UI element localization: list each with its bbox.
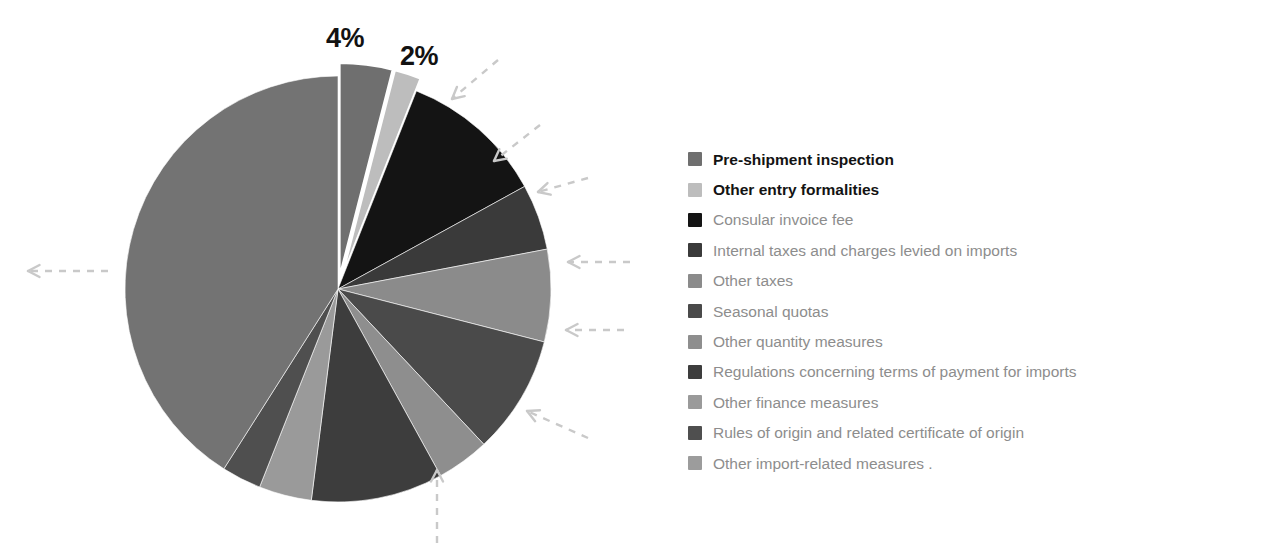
legend-item[interactable]: Consular invoice fee (688, 205, 1248, 235)
pie-chart-area: 4% 2% (0, 0, 660, 543)
legend-swatch-icon (688, 365, 702, 379)
legend-item[interactable]: Other taxes (688, 266, 1248, 296)
legend-swatch-icon (688, 426, 702, 440)
legend-item[interactable]: Rules of origin and related certificate … (688, 418, 1248, 448)
legend-item-label: Pre-shipment inspection (713, 151, 894, 168)
legend-item-label: Other import-related measures . (713, 455, 933, 472)
legend-item-label: Seasonal quotas (713, 303, 828, 320)
legend-item-label: Rules of origin and related certificate … (713, 424, 1024, 441)
legend-swatch-icon (688, 395, 702, 409)
legend-item-label: Other finance measures (713, 394, 878, 411)
legend-swatch-icon (688, 274, 702, 288)
legend-swatch-icon (688, 183, 702, 197)
legend-swatch-icon (688, 152, 702, 166)
arrow-lower-right-icon (527, 410, 588, 438)
pie-data-label-2pct: 2% (400, 41, 438, 72)
legend-item[interactable]: Other entry formalities (688, 174, 1248, 204)
legend-item[interactable]: Regulations concerning terms of payment … (688, 357, 1248, 387)
legend-item[interactable]: Seasonal quotas (688, 296, 1248, 326)
pie-data-label-4pct: 4% (326, 23, 364, 54)
legend-swatch-icon (688, 335, 702, 349)
legend-item-label: Consular invoice fee (713, 211, 853, 228)
legend-swatch-icon (688, 304, 702, 318)
arrow-left-icon (28, 265, 108, 277)
arrow-bottom-icon (431, 470, 443, 543)
legend-item[interactable]: Other quantity measures (688, 326, 1248, 356)
arrow-upper-right-1-icon (452, 60, 498, 99)
pie-chart-figure: 4% 2% Pre-shipment inspectionOther entry… (0, 0, 1267, 543)
arrow-right-2-icon (568, 256, 630, 268)
legend-item[interactable]: Internal taxes and charges levied on imp… (688, 235, 1248, 265)
legend-item[interactable]: Other import-related measures . (688, 448, 1248, 478)
legend-item[interactable]: Other finance measures (688, 387, 1248, 417)
legend-item[interactable]: Pre-shipment inspection (688, 144, 1248, 174)
legend-item-label: Internal taxes and charges levied on imp… (713, 242, 1017, 259)
legend-item-label: Other entry formalities (713, 181, 879, 198)
chart-legend: Pre-shipment inspectionOther entry forma… (688, 144, 1248, 478)
legend-swatch-icon (688, 456, 702, 470)
legend-swatch-icon (688, 243, 702, 257)
arrow-right-1-icon (538, 178, 588, 195)
pie-chart-svg (0, 0, 660, 543)
pie-slices-group (125, 63, 551, 502)
legend-swatch-icon (688, 213, 702, 227)
arrow-right-3-icon (566, 324, 624, 336)
legend-item-label: Other taxes (713, 272, 793, 289)
legend-item-label: Other quantity measures (713, 333, 883, 350)
legend-item-label: Regulations concerning terms of payment … (713, 363, 1077, 380)
